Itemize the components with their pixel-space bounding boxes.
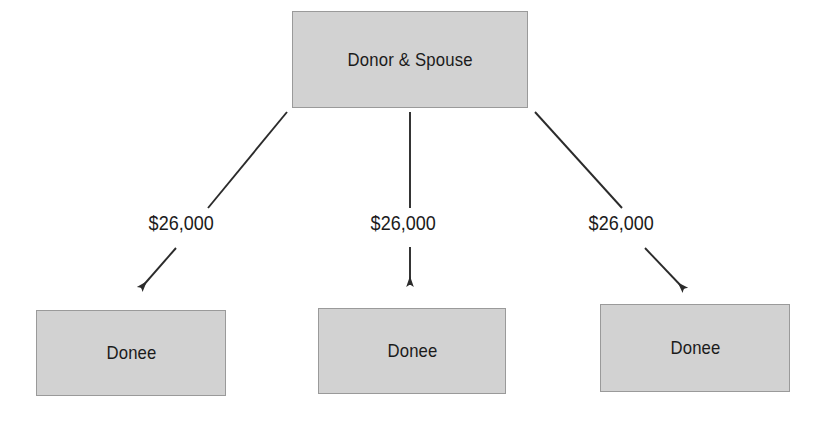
edge-amount-left: $26,000 bbox=[149, 212, 214, 235]
node-donee-2-label: Donee bbox=[387, 340, 437, 362]
node-donee-2: Donee bbox=[318, 308, 506, 394]
edge-arrow-left-lower bbox=[141, 248, 176, 288]
edge-amount-right: $26,000 bbox=[589, 212, 654, 235]
gift-splitting-diagram: Donor & Spouse $26,000 $26,000 $26,000 D… bbox=[0, 0, 825, 430]
node-donor-spouse: Donor & Spouse bbox=[292, 11, 528, 108]
node-donee-3-label: Donee bbox=[670, 337, 720, 359]
edge-amount-middle: $26,000 bbox=[371, 212, 436, 235]
node-donee-1-label: Donee bbox=[106, 342, 156, 364]
edge-arrow-right-lower bbox=[645, 248, 684, 289]
node-donee-3: Donee bbox=[600, 304, 790, 392]
node-donor-spouse-label: Donor & Spouse bbox=[347, 49, 472, 71]
edge-line-right-upper bbox=[535, 112, 622, 208]
edge-line-left-upper bbox=[208, 112, 287, 208]
node-donee-1: Donee bbox=[36, 310, 226, 396]
